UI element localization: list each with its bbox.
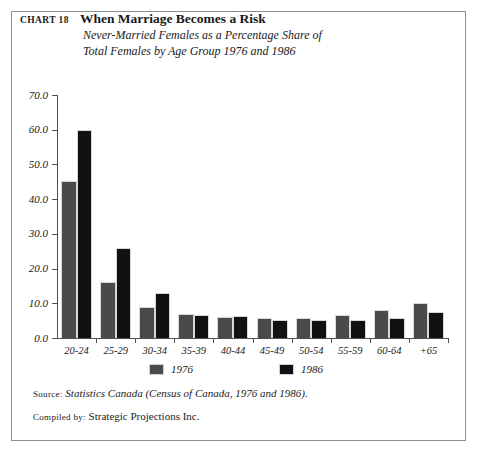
compiled-by-note: Compiled by: Strategic Projections Inc.	[33, 409, 443, 424]
y-axis-tick-label-text: 70.0	[4, 90, 48, 101]
x-axis-tick	[331, 338, 332, 343]
x-axis-tick	[96, 338, 97, 343]
bar-1976-45-49	[257, 318, 273, 338]
y-axis-tick-label: 50.0	[0, 159, 48, 170]
bar-1986-30-34	[155, 293, 171, 338]
x-axis-tick	[370, 338, 371, 343]
x-axis-tick	[448, 338, 449, 343]
y-axis-tick-label-text: 30.0	[4, 228, 48, 239]
x-axis-label-45-49: 45-49	[253, 345, 292, 357]
y-axis-tick	[52, 130, 58, 131]
y-axis-tick-label-text: 0.0	[4, 333, 48, 344]
bar-1986-60-64	[389, 318, 405, 338]
bar-1986-35-39	[194, 315, 210, 338]
y-axis-tick-label-text: 10.0	[4, 298, 48, 309]
y-axis-tick-label: 0.0	[0, 333, 48, 344]
bar-1976-40-44	[217, 317, 233, 338]
bar-1986-40-44	[233, 316, 249, 338]
bar-1986-20-24	[77, 130, 93, 338]
x-axis-label-60-64: 60-64	[370, 345, 409, 357]
legend-swatch-1986	[279, 364, 294, 375]
bar-1976-55-59	[335, 315, 351, 338]
legend-swatch-1976	[149, 364, 164, 375]
chart-page: CHART 18 When Marriage Becomes a Risk Ne…	[0, 0, 482, 456]
y-axis-tick-label-text: 50.0	[4, 159, 48, 170]
bar-1976-25-29	[100, 282, 116, 338]
bar-1986-55-59	[350, 320, 366, 338]
x-axis-tick	[292, 338, 293, 343]
bar-1986-50-54	[311, 320, 327, 338]
x-axis-tick	[213, 338, 214, 343]
bar-1976-50-54	[296, 318, 312, 338]
x-axis-label-20-24: 20-24	[57, 345, 96, 357]
x-axis-tick	[135, 338, 136, 343]
x-axis-label-35-39: 35-39	[174, 345, 213, 357]
y-axis-tick-label: 60.0	[0, 124, 48, 135]
bar-1976-+65	[413, 303, 429, 338]
x-axis-label-+65: +65	[409, 345, 448, 357]
x-axis-label-40-44: 40-44	[213, 345, 252, 357]
x-axis-label-30-34: 30-34	[135, 345, 174, 357]
y-axis-tick-label: 40.0	[0, 194, 48, 205]
x-axis-tick	[174, 338, 175, 343]
bar-1986-25-29	[116, 248, 132, 338]
y-axis-tick	[52, 269, 58, 270]
compiled-by-note-value: Strategic Projections Inc.	[89, 410, 200, 422]
y-axis-tick	[52, 303, 58, 304]
x-axis-label-50-54: 50-54	[292, 345, 331, 357]
x-axis-label-25-29: 25-29	[96, 345, 135, 357]
y-axis-tick-label-text: 20.0	[4, 263, 48, 274]
legend-label-1976: 1976	[171, 363, 193, 375]
y-axis-tick-label: 70.0	[0, 90, 48, 101]
y-axis-tick	[52, 95, 58, 96]
chart-notes: Source: Statistics Canada (Census of Can…	[33, 386, 443, 432]
y-axis-tick-label: 20.0	[0, 263, 48, 274]
y-axis-tick-label-text: 40.0	[4, 194, 48, 205]
source-note: Source: Statistics Canada (Census of Can…	[33, 386, 443, 401]
legend-item-1976: 1976	[149, 363, 193, 375]
y-axis-tick	[52, 234, 58, 235]
bar-1986-+65	[428, 312, 444, 338]
bar-1986-45-49	[272, 320, 288, 338]
y-axis-tick	[52, 338, 58, 339]
y-axis-tick-label: 30.0	[0, 228, 48, 239]
x-axis-tick	[409, 338, 410, 343]
y-axis-tick	[52, 199, 58, 200]
compiled-by-note-key: Compiled by:	[33, 412, 86, 422]
chart-legend: 1976 1986	[57, 363, 448, 379]
bar-1976-35-39	[178, 314, 194, 338]
legend-item-1986: 1986	[279, 363, 323, 375]
x-axis-label-55-59: 55-59	[331, 345, 370, 357]
bar-1976-20-24	[61, 181, 77, 338]
legend-label-1986: 1986	[301, 363, 323, 375]
y-axis-tick-label: 10.0	[0, 298, 48, 309]
y-axis-tick-label-text: 60.0	[4, 124, 48, 135]
source-note-key: Source:	[33, 389, 63, 399]
x-axis-tick	[253, 338, 254, 343]
bar-1976-30-34	[139, 307, 155, 338]
source-note-value: Statistics Canada (Census of Canada, 197…	[65, 387, 307, 399]
y-axis-tick	[52, 164, 58, 165]
bar-1976-60-64	[374, 310, 390, 338]
